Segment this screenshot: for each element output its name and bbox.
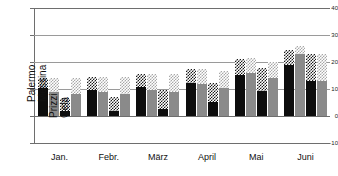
bar-cap-segment	[98, 77, 108, 91]
bar-body-segment	[257, 91, 267, 116]
bar-messina-juni	[295, 46, 305, 116]
bar-gela-mrz	[169, 74, 179, 116]
bar-prizzi-april	[208, 83, 218, 116]
bar-cap-segment	[235, 59, 245, 74]
bar-body-segment	[268, 78, 278, 116]
bar-body-segment	[98, 92, 108, 116]
bar-cap-segment	[186, 69, 196, 83]
series-label-prizzi: Prizzi	[49, 94, 59, 118]
x-tick-label-april: April	[183, 152, 232, 162]
bar-cap-segment	[219, 71, 229, 88]
x-tick-label-febr: Febr.	[84, 152, 133, 162]
bar-gela-mai	[268, 62, 278, 116]
bar-palermo-mrz	[136, 74, 146, 116]
bar-prizzi-mai	[257, 68, 267, 116]
bar-body-segment	[219, 88, 229, 116]
series-label-messina: Messina	[38, 65, 48, 102]
bar-prizzi-mrz	[158, 90, 168, 116]
zero-baseline	[34, 116, 330, 117]
bar-messina-mai	[246, 58, 256, 116]
bar-cap-segment	[147, 74, 157, 89]
plot-top-border	[34, 8, 330, 9]
bar-body-segment	[197, 84, 207, 116]
bar-body-segment	[169, 92, 179, 116]
series-label-gela: Gela	[60, 97, 70, 118]
bar-body-segment	[87, 90, 97, 116]
x-tick-label-juni: Juni	[281, 152, 330, 162]
bar-cap-segment	[120, 77, 130, 93]
bar-body-segment	[306, 81, 316, 116]
bar-messina-mrz	[147, 74, 157, 116]
bar-body-segment	[284, 65, 294, 116]
bar-gela-juni	[317, 54, 327, 116]
bar-messina-febr	[98, 77, 108, 116]
bar-body-segment	[186, 83, 196, 116]
bar-body-segment	[295, 54, 305, 116]
bar-messina-april	[197, 69, 207, 116]
x-tick-label-jan: Jan.	[35, 152, 84, 162]
bar-body-segment	[136, 87, 146, 116]
bar-cap-segment	[49, 78, 59, 93]
bar-palermo-febr	[87, 77, 97, 116]
bar-body-segment	[147, 90, 157, 116]
bar-cap-segment	[109, 97, 119, 111]
bar-cap-segment	[284, 50, 294, 65]
bar-cap-segment	[317, 54, 327, 80]
bar-gela-april	[219, 71, 229, 116]
bar-body-segment	[235, 75, 245, 116]
x-tick-label-mai: Mai	[232, 152, 281, 162]
bar-body-segment	[208, 102, 218, 116]
bar-cap-segment	[158, 90, 168, 109]
bar-cap-segment	[295, 46, 305, 55]
bar-body-segment	[246, 73, 256, 116]
x-tick-label-mrz: März	[133, 152, 182, 162]
bar-palermo-juni	[284, 50, 294, 116]
bar-cap-segment	[71, 78, 81, 94]
bar-cap-segment	[208, 83, 218, 102]
bar-gela-jan	[71, 78, 81, 116]
bar-body-segment	[120, 94, 130, 116]
bar-cap-segment	[246, 58, 256, 73]
bar-body-segment	[158, 109, 168, 116]
bar-cap-segment	[169, 74, 179, 92]
bar-cap-segment	[136, 74, 146, 87]
series-label-palermo: Palermo	[27, 65, 37, 102]
plot-bottom-border	[34, 143, 330, 144]
gridline-30	[34, 35, 330, 36]
bar-palermo-april	[186, 69, 196, 116]
bar-cap-segment	[197, 69, 207, 84]
bar-cap-segment	[268, 62, 278, 78]
bar-body-segment	[317, 81, 327, 116]
bar-gela-febr	[120, 77, 130, 116]
bar-cap-segment	[306, 54, 316, 80]
bar-prizzi-juni	[306, 54, 316, 116]
bar-chart: 40 30 20 10 0 -10 Palermo Messina Prizzi…	[0, 0, 338, 176]
bar-body-segment	[71, 94, 81, 116]
bar-cap-segment	[257, 68, 267, 91]
bar-cap-segment	[87, 77, 97, 90]
bar-prizzi-febr	[109, 97, 119, 116]
bar-palermo-mai	[235, 59, 245, 116]
